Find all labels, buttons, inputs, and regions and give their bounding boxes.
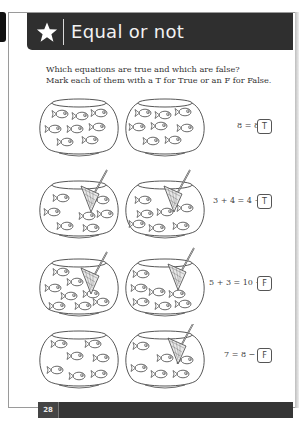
title-bar: Equal or not <box>27 13 293 50</box>
answer-box[interactable]: T <box>257 194 272 209</box>
answer-box[interactable]: F <box>257 276 272 291</box>
fishing-net <box>75 168 115 218</box>
fishbowl-right <box>123 96 209 162</box>
answer-box[interactable]: T <box>257 119 272 134</box>
instruction-line-1: Which equations are true and which are f… <box>46 64 271 75</box>
side-tab <box>0 12 6 42</box>
footer-bar <box>38 402 293 418</box>
fishing-net <box>75 244 115 302</box>
answer-box[interactable]: F <box>257 348 272 363</box>
title-separator <box>63 19 64 45</box>
fishbowl-left <box>37 328 123 394</box>
equation-row-4: 7 = 8 − 2 F <box>0 324 305 394</box>
fishing-net-full <box>160 244 202 302</box>
page-number: 28 <box>38 402 59 418</box>
equation-text: 8 = 8 <box>237 121 259 130</box>
fishing-net-full <box>160 324 202 364</box>
page-title: Equal or not <box>71 21 184 42</box>
instruction-line-2: Mark each of them with a T for True or a… <box>46 75 271 86</box>
fishbowl-left <box>37 96 123 162</box>
equation-row-1: 8 = 8 T <box>0 96 305 162</box>
fishing-net <box>160 168 200 218</box>
equation-row-3: 5 + 3 = 10 − 3 F <box>0 244 305 324</box>
star-icon <box>36 21 58 43</box>
instructions: Which equations are true and which are f… <box>46 64 271 86</box>
equation-row-2: 3 + 4 = 4 + 3 T <box>0 168 305 244</box>
